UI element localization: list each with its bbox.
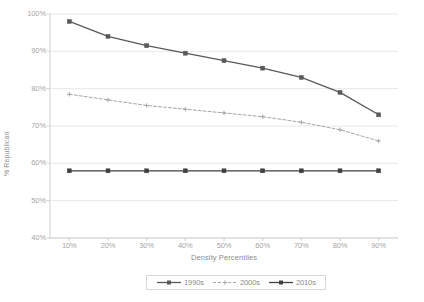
y-axis-tick-labels: 100%90%80%70%60%50%40% — [14, 0, 46, 302]
x-tick-label: 70% — [281, 241, 321, 251]
y-tick-label: 90% — [14, 47, 46, 55]
x-tick-label: 40% — [165, 241, 205, 251]
legend-swatch-1990s — [156, 278, 182, 287]
legend-label: 2000s — [240, 278, 260, 287]
data-point — [261, 66, 265, 70]
y-tick-label: 60% — [14, 159, 46, 167]
data-point — [145, 169, 149, 173]
data-point — [299, 169, 303, 173]
data-point — [338, 90, 342, 94]
chart-container: % Republican 100%90%80%70%60%50%40% 10%2… — [0, 0, 424, 302]
x-tick-label: 50% — [204, 241, 244, 251]
x-tick-label: 10% — [49, 241, 89, 251]
plot-svg — [50, 14, 398, 238]
series-2000s — [67, 92, 381, 143]
x-axis-tick-labels: 10%20%30%40%50%60%70%80%90% — [50, 241, 398, 253]
x-tick-label: 90% — [359, 241, 399, 251]
data-point — [183, 169, 187, 173]
series-line — [69, 94, 378, 141]
series-1990s — [67, 19, 380, 116]
legend-item-2000s[interactable]: 2000s — [212, 278, 260, 287]
data-point — [377, 113, 381, 117]
plot-area — [50, 14, 398, 238]
x-tick-label: 60% — [243, 241, 283, 251]
legend-marker — [167, 281, 171, 285]
y-tick-label: 40% — [14, 234, 46, 242]
legend-marker — [279, 281, 283, 285]
legend-item-2010s[interactable]: 2010s — [268, 278, 316, 287]
chart-legend: 1990s2000s2010s — [146, 275, 326, 290]
x-tick-label: 20% — [88, 241, 128, 251]
data-point — [106, 34, 110, 38]
x-tick-label: 30% — [127, 241, 167, 251]
series-2010s — [67, 169, 380, 173]
y-tick-label: 100% — [14, 10, 46, 18]
data-point — [145, 44, 149, 48]
data-point — [222, 169, 226, 173]
data-point — [183, 51, 187, 55]
data-point — [299, 75, 303, 79]
y-tick-label: 70% — [14, 122, 46, 130]
data-point — [377, 169, 381, 173]
legend-swatch-2010s — [268, 278, 294, 287]
data-point — [67, 169, 71, 173]
legend-label: 1990s — [184, 278, 204, 287]
data-point — [106, 169, 110, 173]
legend-item-1990s[interactable]: 1990s — [156, 278, 204, 287]
data-point — [222, 59, 226, 63]
x-tick-label: 80% — [320, 241, 360, 251]
x-axis-title: Density Percentiles — [50, 253, 398, 262]
data-point — [261, 169, 265, 173]
legend-label: 2010s — [296, 278, 316, 287]
data-point — [67, 19, 71, 23]
y-tick-label: 50% — [14, 197, 46, 205]
data-point — [338, 169, 342, 173]
legend-swatch-2000s — [212, 278, 238, 287]
y-tick-label: 80% — [14, 85, 46, 93]
